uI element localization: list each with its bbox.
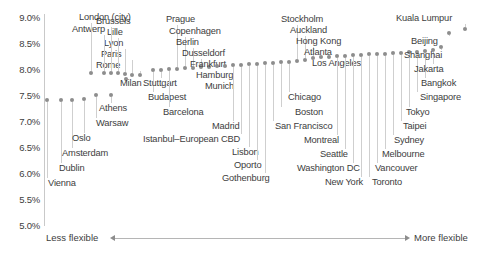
leader-line [84, 101, 85, 133]
y-axis-tick: 8.0% [0, 64, 40, 75]
leader-line [233, 67, 234, 121]
city-label: Melbourne [382, 149, 425, 159]
city-label: New York [325, 177, 363, 187]
city-label: London (city) [79, 12, 131, 22]
leader-line [385, 56, 386, 149]
y-axis-tick: 5.0% [0, 220, 40, 231]
data-point [279, 60, 283, 64]
y-axis-line [44, 14, 45, 226]
city-label: Auckland [290, 25, 327, 35]
y-axis-tick: 9.0% [0, 12, 40, 23]
data-point [255, 62, 259, 66]
data-point [59, 98, 63, 102]
data-point [287, 60, 291, 64]
data-point [175, 67, 179, 71]
city-label: Singapore [420, 92, 461, 102]
data-point [130, 73, 134, 77]
data-point [399, 51, 403, 55]
city-label: Boston [295, 107, 323, 117]
leader-line [345, 58, 346, 149]
leader-line [169, 71, 170, 107]
city-label: Kuala Lumpur [396, 13, 452, 23]
city-label: Taipei [403, 121, 426, 131]
data-point [375, 52, 379, 56]
data-point [109, 93, 113, 97]
data-point [383, 52, 387, 56]
city-label: Vancouver [375, 163, 417, 173]
data-point [247, 62, 251, 66]
axis-label-less-flexible: Less flexible [46, 232, 98, 243]
city-label: Oporto [234, 160, 262, 170]
y-axis-tick: 7.0% [0, 116, 40, 127]
data-point [123, 72, 127, 76]
city-label: Prague [166, 14, 195, 24]
flexibility-yield-scatter-chart: 9.0%8.5%8.0%7.5%7.0%6.5%6.0%5.5%5.0% Vie… [0, 0, 485, 253]
city-label: San Francisco [275, 121, 332, 131]
data-point [335, 54, 339, 58]
data-point [70, 98, 74, 102]
leader-line [409, 54, 410, 107]
city-label: Washington DC [297, 163, 360, 173]
data-point [215, 64, 219, 68]
data-point [151, 68, 155, 72]
city-label: Amsterdam [62, 148, 108, 158]
city-label: Toronto [372, 177, 402, 187]
leader-line [393, 55, 394, 135]
data-point [271, 61, 275, 65]
data-point [343, 54, 347, 58]
city-label: Montreal [304, 135, 339, 145]
data-point [102, 71, 106, 75]
data-point [351, 53, 355, 57]
data-point [138, 73, 142, 77]
city-label: Seattle [320, 149, 348, 159]
axis-label-more-flexible: More flexible [414, 232, 468, 243]
leader-line [289, 64, 290, 92]
data-point [439, 45, 443, 49]
leader-line [369, 56, 370, 177]
leader-line [241, 67, 242, 134]
city-label: Beijing [411, 36, 438, 46]
leader-line [96, 97, 97, 118]
leader-line [257, 66, 258, 160]
leader-line [281, 64, 282, 107]
city-label: Shanghai [404, 50, 442, 60]
city-label: Copenhagen [169, 26, 221, 36]
city-label: Vienna [48, 178, 76, 188]
city-label: Bangkok [421, 78, 456, 88]
leader-line [104, 35, 105, 71]
right-arrow-icon [405, 235, 410, 241]
city-label: Milan [120, 78, 141, 88]
city-label: Stuttgart [143, 78, 177, 88]
data-point [367, 52, 371, 56]
data-point [167, 67, 171, 71]
city-label: Lisbon [232, 147, 259, 157]
city-label: Dusseldorf [182, 48, 225, 58]
y-axis-tick: 5.5% [0, 194, 40, 205]
data-point [94, 93, 98, 97]
city-label: Gothenburg [222, 173, 270, 183]
leader-line [353, 57, 354, 163]
data-point [231, 63, 235, 67]
data-point [116, 71, 120, 75]
leader-line [111, 27, 112, 71]
city-label: Rome [96, 60, 120, 70]
data-point [183, 66, 187, 70]
leader-line [47, 102, 48, 178]
data-point [45, 98, 49, 102]
data-point [295, 59, 299, 63]
city-label: Lyon [104, 38, 123, 48]
data-point [447, 31, 451, 35]
data-point [82, 97, 86, 101]
data-point [463, 27, 467, 31]
leader-line [125, 49, 126, 72]
y-axis-tick: 7.5% [0, 90, 40, 101]
city-label: Athens [99, 103, 127, 113]
city-label: Chicago [288, 92, 321, 102]
leader-line [118, 38, 119, 71]
city-label: Frankfurt [190, 59, 226, 69]
leader-line [449, 35, 450, 36]
y-axis-tick: 8.5% [0, 38, 40, 49]
data-point [263, 61, 267, 65]
leader-line [132, 60, 133, 73]
axis-connector-line [115, 238, 405, 239]
